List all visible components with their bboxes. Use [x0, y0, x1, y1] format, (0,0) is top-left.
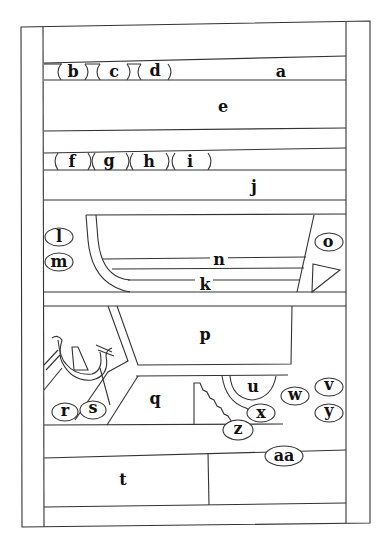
- serpent-motif: [44, 336, 114, 405]
- diagram-canvas: b c d a e f g h i j n k: [0, 0, 386, 554]
- label-y: y: [323, 401, 334, 420]
- label-r: r: [61, 401, 70, 420]
- register-j: f g h i j: [44, 148, 346, 200]
- label-g: g: [103, 151, 114, 170]
- register-e: e: [44, 97, 346, 132]
- label-l: l: [56, 227, 62, 246]
- label-q: q: [149, 389, 160, 408]
- panel-diagram: b c d a e f g h i j n k: [0, 0, 386, 554]
- label-k: k: [199, 275, 211, 294]
- label-b: b: [67, 62, 78, 81]
- register-boat: n k l m o: [44, 214, 346, 306]
- label-j: j: [249, 177, 257, 196]
- label-d: d: [149, 61, 160, 80]
- label-n: n: [213, 250, 225, 269]
- label-aa: aa: [274, 446, 295, 465]
- label-h: h: [143, 152, 155, 171]
- label-u: u: [247, 377, 259, 396]
- label-z: z: [233, 419, 242, 438]
- label-x: x: [256, 403, 266, 422]
- label-o: o: [323, 232, 334, 251]
- label-s: s: [88, 398, 97, 417]
- label-w: w: [287, 385, 303, 404]
- label-v: v: [323, 375, 334, 394]
- label-c: c: [109, 62, 119, 81]
- label-f: f: [69, 152, 77, 171]
- label-e: e: [218, 97, 228, 116]
- label-t: t: [119, 470, 127, 489]
- label-p: p: [199, 325, 210, 344]
- label-a: a: [276, 62, 286, 81]
- label-m: m: [51, 252, 68, 271]
- register-a: b c d a: [44, 56, 346, 81]
- label-i: i: [187, 152, 193, 171]
- register-bottom: aa t: [44, 446, 346, 508]
